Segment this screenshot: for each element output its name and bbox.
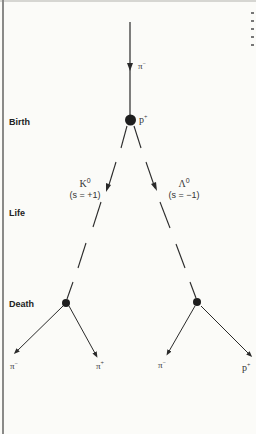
kaon-arrow-icon [106, 183, 111, 192]
kaon-label: K0 (s = +1) [65, 175, 105, 201]
lambda-arrow-icon [151, 182, 157, 191]
lambda-strangeness: (s = −1) [164, 190, 204, 201]
lambda-decay-proton-label: p+ [242, 362, 250, 373]
lambda-proton-track [201, 306, 250, 355]
incoming-pion-label: π− [138, 60, 146, 71]
lambda-decay-pi-minus-label: π− [158, 359, 166, 370]
kaon-decay-pi-plus-label: π+ [96, 360, 104, 371]
stage-label-death: Death [9, 299, 34, 309]
lambda-decay-vertex-dot [193, 298, 201, 306]
stage-label-life: Life [9, 208, 25, 218]
lambda-pi-minus-track [168, 306, 195, 353]
incoming-pion-track [127, 22, 133, 116]
arrow-down-icon [127, 63, 133, 71]
kaon-neutral-track [67, 126, 127, 299]
stage-label-birth: Birth [9, 117, 30, 127]
kaon-decay-pi-minus-label: π− [10, 360, 18, 371]
kaon-strangeness: (s = +1) [65, 190, 105, 201]
kaon-pi-minus-track [16, 306, 63, 352]
lambda-neutral-track [134, 126, 196, 298]
clipped-text-fragment [251, 12, 255, 62]
kaon-pi-plus-track [69, 306, 96, 355]
lambda-label: Λ0 (s = −1) [164, 175, 204, 201]
kaon-decay-vertex-dot [62, 299, 70, 307]
production-vertex-dot [125, 115, 136, 126]
target-proton-label: p+ [139, 114, 147, 125]
particle-event-diagram [0, 0, 256, 434]
